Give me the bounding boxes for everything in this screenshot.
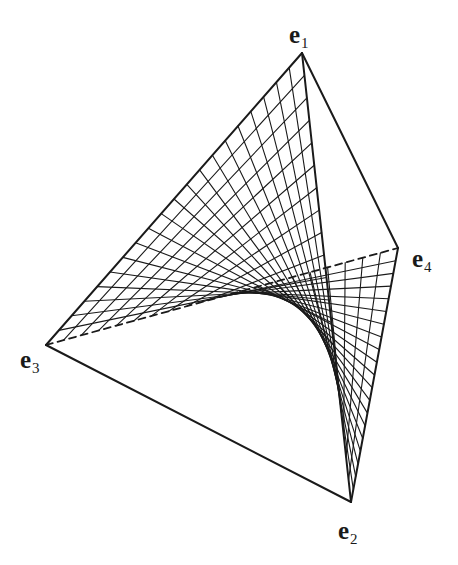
edge-e1-e4 [302,53,398,248]
edge-e1-e3 [46,53,302,345]
label-subscript: 2 [350,531,358,547]
label-base: e [20,346,31,373]
label-subscript: 3 [32,360,40,376]
label-subscript: 1 [301,35,309,51]
vertex-label-e4: e4 [412,246,432,275]
edge-e4-e2 [351,248,398,502]
edge-e3-e2 [46,345,351,502]
label-base: e [289,21,300,48]
tetrahedron-ruled-surface-diagram [0,0,458,565]
label-subscript: 4 [424,259,432,275]
label-base: e [338,517,349,544]
vertex-label-e3: e3 [20,347,40,376]
ruled-surface-grid [59,68,396,490]
edge-e1-e2 [302,53,351,502]
label-base: e [412,245,423,272]
vertex-label-e2: e2 [338,518,358,547]
vertex-label-e1: e1 [289,22,309,51]
